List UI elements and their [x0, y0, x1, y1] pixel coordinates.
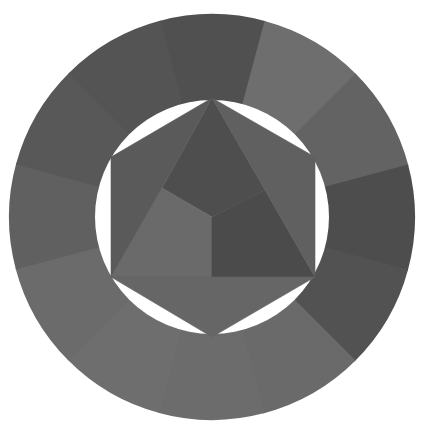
color-wheel — [0, 0, 421, 430]
color-wheel-diagram — [0, 0, 421, 430]
